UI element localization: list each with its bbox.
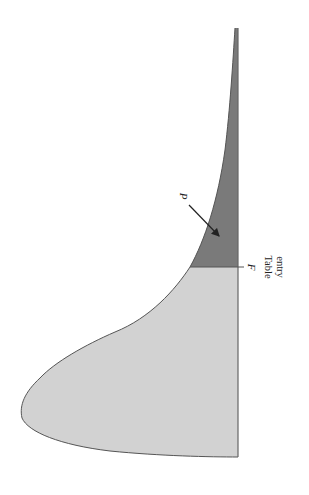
f-distribution-diagram: P F Table entry	[0, 0, 309, 495]
p-label: P	[178, 192, 190, 200]
f-label: F	[246, 263, 258, 271]
table-entry-label-line2: entry	[275, 256, 286, 278]
density-body-region	[21, 267, 238, 457]
table-entry-label-line1: Table	[263, 255, 274, 279]
